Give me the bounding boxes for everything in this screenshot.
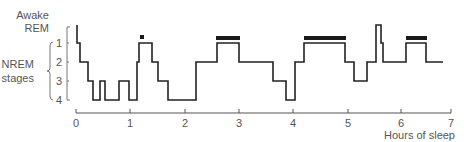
rem-bar-4 [406, 36, 427, 40]
y-tick-2: 2 [56, 56, 62, 68]
y-tick-1: 1 [56, 37, 62, 49]
y-label-awake: Awake [16, 9, 49, 21]
hypnogram-chart: Awake REM NREM stages 1 2 3 4 0 1 2 3 4 [0, 0, 464, 142]
x-tick-5: 5 [345, 117, 351, 129]
rem-period-bars [140, 35, 427, 40]
hypnogram-line [77, 25, 443, 100]
hypnogram-svg: Awake REM NREM stages 1 2 3 4 0 1 2 3 4 [0, 0, 464, 142]
y-label-rem: REM [25, 22, 49, 34]
x-tick-3: 3 [236, 117, 242, 129]
x-tick-1: 1 [127, 117, 133, 129]
x-axis-label: Hours of sleep [384, 129, 455, 141]
rem-bar-2 [216, 36, 240, 40]
x-tick-6: 6 [398, 117, 404, 129]
rem-bar-1 [140, 35, 144, 39]
x-tick-7: 7 [448, 117, 454, 129]
x-tick-4: 4 [290, 117, 296, 129]
y-tick-4: 4 [56, 94, 62, 106]
nrem-brace [47, 42, 53, 100]
y-axis-bracket [67, 27, 70, 100]
x-tick-2: 2 [182, 117, 188, 129]
y-label-nrem: NREM [2, 58, 34, 70]
rem-bar-3 [304, 36, 346, 40]
x-tick-0: 0 [73, 117, 79, 129]
y-tick-3: 3 [56, 75, 62, 87]
y-label-stages-text: stages [2, 72, 35, 84]
